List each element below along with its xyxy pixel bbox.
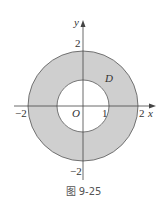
origin-label: O (72, 107, 80, 119)
figure-caption: 图 9-25 (0, 183, 167, 198)
x-tick-1: 1 (102, 107, 108, 119)
x-tick-neg2: −2 (15, 107, 27, 119)
x-tick-2: 2 (139, 107, 145, 119)
y-tick-2: 2 (75, 37, 81, 49)
annulus-diagram: y x 2 −2 −2 1 2 O D (0, 0, 167, 211)
x-axis-label: x (147, 107, 153, 119)
y-tick-neg2: −2 (70, 165, 82, 177)
region-label-D: D (104, 72, 113, 84)
y-axis-arrow-icon (81, 20, 86, 27)
y-axis-label: y (73, 16, 79, 28)
